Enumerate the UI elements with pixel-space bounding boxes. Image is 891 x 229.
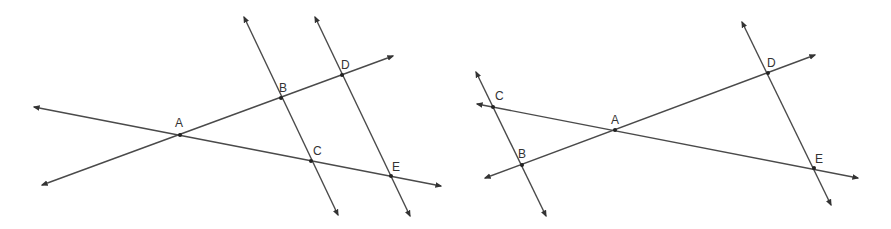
line-de: [315, 17, 410, 216]
line-ae: [34, 107, 441, 186]
point-b: [520, 163, 524, 167]
point-e: [389, 174, 393, 178]
line-bc: [244, 17, 338, 215]
point-e: [812, 166, 816, 170]
point-label-b: B: [279, 81, 287, 95]
right-diagram: ABCDE: [476, 22, 858, 216]
point-a: [613, 128, 617, 132]
point-c: [491, 105, 495, 109]
point-label-b: B: [518, 147, 526, 161]
point-label-d: D: [341, 58, 350, 72]
point-label-c: C: [495, 89, 504, 103]
point-label-e: E: [392, 160, 400, 174]
line-cb: [476, 72, 546, 216]
point-label-a: A: [175, 116, 183, 130]
line-ce: [477, 104, 858, 178]
point-label-c: C: [313, 144, 322, 158]
point-c: [309, 159, 313, 163]
point-d: [340, 73, 344, 77]
point-a: [178, 133, 182, 137]
point-d: [766, 71, 770, 75]
point-label-d: D: [767, 56, 776, 70]
left-diagram: ABCDE: [34, 17, 441, 216]
line-de: [742, 22, 831, 205]
point-label-e: E: [815, 152, 823, 166]
point-label-a: A: [611, 113, 619, 127]
point-b: [279, 96, 283, 100]
geometry-diagrams: ABCDE ABCDE: [0, 0, 891, 229]
